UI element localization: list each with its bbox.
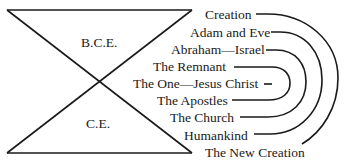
bce-label: B.C.E. — [81, 35, 117, 50]
item-the-one-jesus-christ: The One—Jesus Christ — [133, 76, 258, 91]
item-creation: Creation — [205, 7, 252, 22]
item-the-remnant: The Remnant — [153, 59, 226, 74]
item-the-new-creation: The New Creation — [205, 145, 305, 160]
item-humankind: Humankind — [184, 128, 248, 143]
item-the-apostles: The Apostles — [157, 93, 228, 108]
item-adam-and-eve: Adam and Eve — [190, 25, 270, 40]
item-the-church: The Church — [170, 110, 234, 125]
item-abraham-israel: Abraham—Israel — [171, 42, 265, 57]
item-labels: Creation Adam and Eve Abraham—Israel The… — [133, 7, 305, 160]
salvation-history-diagram: B.C.E. C.E. Creation Adam and Eve Abraha… — [0, 0, 348, 162]
ce-label: C.E. — [86, 116, 110, 131]
